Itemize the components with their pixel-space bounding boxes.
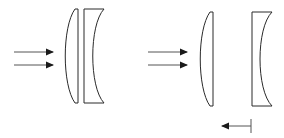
plano-concave-lens-right (252, 12, 272, 106)
right-configuration (148, 12, 272, 133)
plano-concave-lens-left (84, 9, 104, 103)
motion-arrow-left (222, 119, 251, 133)
plano-convex-lens-right (200, 12, 213, 106)
diagram-canvas (0, 0, 284, 138)
optics-diagram (0, 0, 284, 138)
incoming-rays-right (148, 52, 187, 65)
left-configuration (14, 9, 104, 103)
incoming-rays-left (14, 52, 53, 65)
plano-convex-lens-left (65, 9, 78, 103)
